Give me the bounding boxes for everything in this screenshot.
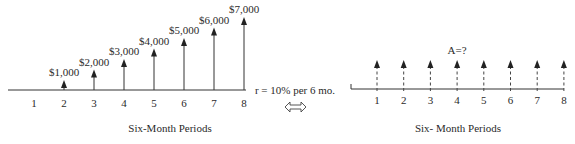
- cash-flow-arrow: $4,000: [139, 35, 170, 91]
- annuity-label: A=?: [447, 44, 466, 56]
- cash-flow-amount: $5,000: [169, 24, 200, 36]
- annuity-arrow: [401, 60, 407, 91]
- annuity-arrow: [374, 60, 380, 91]
- cash-flow-amount: $3,000: [109, 45, 140, 57]
- period-label: 4: [121, 97, 127, 109]
- period-label: 8: [241, 97, 247, 109]
- period-label: 1: [31, 97, 37, 109]
- right-annuity-arrows: [374, 60, 567, 91]
- period-label: 4: [454, 94, 460, 106]
- cash-flow-amount: $1,000: [49, 66, 80, 78]
- right-axis-caption: Six- Month Periods: [415, 122, 501, 134]
- annuity-arrow: [561, 60, 567, 91]
- annuity-arrow: [427, 60, 433, 91]
- right-period-labels: 12345678: [374, 94, 567, 106]
- cash-flow-diagram: $1,000$2,000$3,000$4,000$5,000$6,000$7,0…: [0, 0, 575, 144]
- equivalence-block: r = 10% per 6 mo.: [255, 84, 335, 112]
- right-cash-flow-diagram: A=? 12345678 Six- Month Periods: [351, 44, 567, 134]
- period-label: 6: [181, 97, 187, 109]
- period-label: 7: [534, 94, 540, 106]
- left-period-labels: 12345678: [31, 97, 247, 109]
- period-label: 5: [151, 97, 157, 109]
- cash-flow-arrow: $6,000: [199, 14, 230, 91]
- interest-rate-label: r = 10% per 6 mo.: [255, 84, 335, 96]
- period-label: 7: [211, 97, 217, 109]
- cash-flow-amount: $4,000: [139, 35, 170, 47]
- annuity-arrow: [481, 60, 487, 91]
- left-cash-flow-diagram: $1,000$2,000$3,000$4,000$5,000$6,000$7,0…: [8, 3, 260, 134]
- period-label: 6: [508, 94, 514, 106]
- period-label: 2: [61, 97, 67, 109]
- cash-flow-arrow: $1,000: [49, 66, 80, 90]
- period-label: 1: [374, 94, 380, 106]
- annuity-arrow: [534, 60, 540, 91]
- cash-flow-amount: $6,000: [199, 14, 230, 26]
- cash-flow-arrow: $5,000: [169, 24, 200, 90]
- double-arrow-icon: [285, 102, 306, 112]
- period-label: 5: [481, 94, 487, 106]
- cash-flow-arrow: $3,000: [109, 45, 140, 90]
- annuity-arrow: [508, 60, 514, 91]
- annuity-arrow: [454, 60, 460, 91]
- left-axis-caption: Six-Month Periods: [128, 122, 211, 134]
- cash-flow-amount: $7,000: [229, 3, 260, 15]
- cash-flow-arrow: $7,000: [229, 3, 260, 90]
- left-cash-flow-arrows: $1,000$2,000$3,000$4,000$5,000$6,000$7,0…: [49, 3, 260, 90]
- period-label: 3: [428, 94, 434, 106]
- period-label: 3: [91, 97, 97, 109]
- cash-flow-arrow: $2,000: [79, 56, 110, 91]
- period-label: 2: [401, 94, 407, 106]
- cash-flow-amount: $2,000: [79, 56, 110, 68]
- period-label: 8: [561, 94, 567, 106]
